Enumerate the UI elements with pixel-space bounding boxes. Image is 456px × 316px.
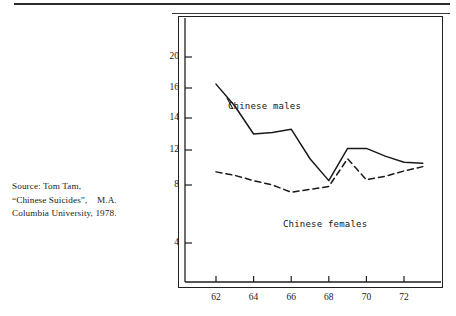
page-top-rule [14, 3, 450, 5]
x-axis-ticks [216, 276, 404, 282]
page-top-rule-secondary [172, 13, 450, 14]
series-line-chinese-females [216, 159, 423, 193]
y-axis-tick-label: 16 [157, 82, 179, 92]
x-axis-tick-label: 62 [205, 292, 227, 302]
series-label-chinese-females: Chinese females [283, 219, 367, 229]
line-chart-plot [178, 16, 443, 288]
source-note-line-1: Source: Tom Tam, [12, 180, 162, 194]
y-axis-tick-label: 14 [157, 112, 179, 122]
x-axis-tick-label: 64 [243, 292, 265, 302]
series-label-chinese-males: Chinese males [228, 101, 301, 111]
x-axis-tick-label: 66 [280, 292, 302, 302]
y-axis-tick-label: 4 [157, 237, 179, 247]
source-note-line-2: “Chinese Suicides”, M.A. [12, 194, 162, 208]
y-axis-tick-label: 8 [157, 179, 179, 189]
x-axis-tick-label: 68 [318, 292, 340, 302]
source-note-line-3: Columbia University, 1978. [12, 207, 162, 221]
source-note: Source: Tom Tam, “Chinese Suicides”, M.A… [12, 180, 162, 221]
x-axis-tick-label: 70 [355, 292, 377, 302]
axis-group [185, 18, 441, 282]
y-axis-tick-label: 12 [157, 144, 179, 154]
y-axis-ticks [185, 57, 192, 243]
y-axis-tick-label: 20 [157, 51, 179, 61]
x-axis-tick-label: 72 [393, 292, 415, 302]
series-line-chinese-males [216, 84, 423, 181]
